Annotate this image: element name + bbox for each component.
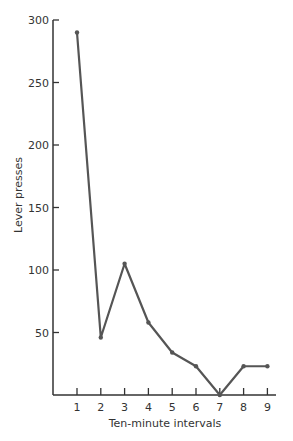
data-point-marker [241, 364, 245, 368]
y-axis: 50100150200250300 [28, 14, 59, 395]
data-point-marker [146, 320, 150, 324]
series-line [77, 33, 267, 396]
data-series [75, 30, 270, 397]
x-tick-label: 1 [74, 401, 81, 414]
x-tick-label: 5 [169, 401, 176, 414]
x-tick-label: 9 [264, 401, 271, 414]
data-point-marker [122, 262, 126, 266]
y-tick-label: 150 [28, 202, 49, 215]
y-tick-label: 100 [28, 264, 49, 277]
x-tick-label: 8 [240, 401, 247, 414]
line-chart: 50100150200250300 123456789 Lever presse… [0, 0, 293, 441]
data-point-marker [194, 364, 198, 368]
data-point-marker [265, 364, 269, 368]
x-axis-label: Ten-minute intervals [108, 417, 222, 430]
y-tick-label: 50 [35, 327, 49, 340]
x-tick-label: 7 [216, 401, 223, 414]
y-tick-label: 200 [28, 139, 49, 152]
data-point-marker [99, 335, 103, 339]
x-tick-label: 2 [97, 401, 104, 414]
x-tick-label: 4 [145, 401, 152, 414]
data-point-marker [75, 30, 79, 34]
data-point-marker [218, 393, 222, 397]
y-axis-label: Lever presses [12, 157, 25, 233]
data-point-marker [170, 350, 174, 354]
x-tick-label: 6 [193, 401, 200, 414]
y-tick-label: 300 [28, 14, 49, 27]
y-tick-label: 250 [28, 77, 49, 90]
x-axis: 123456789 [53, 388, 276, 414]
x-tick-label: 3 [121, 401, 128, 414]
